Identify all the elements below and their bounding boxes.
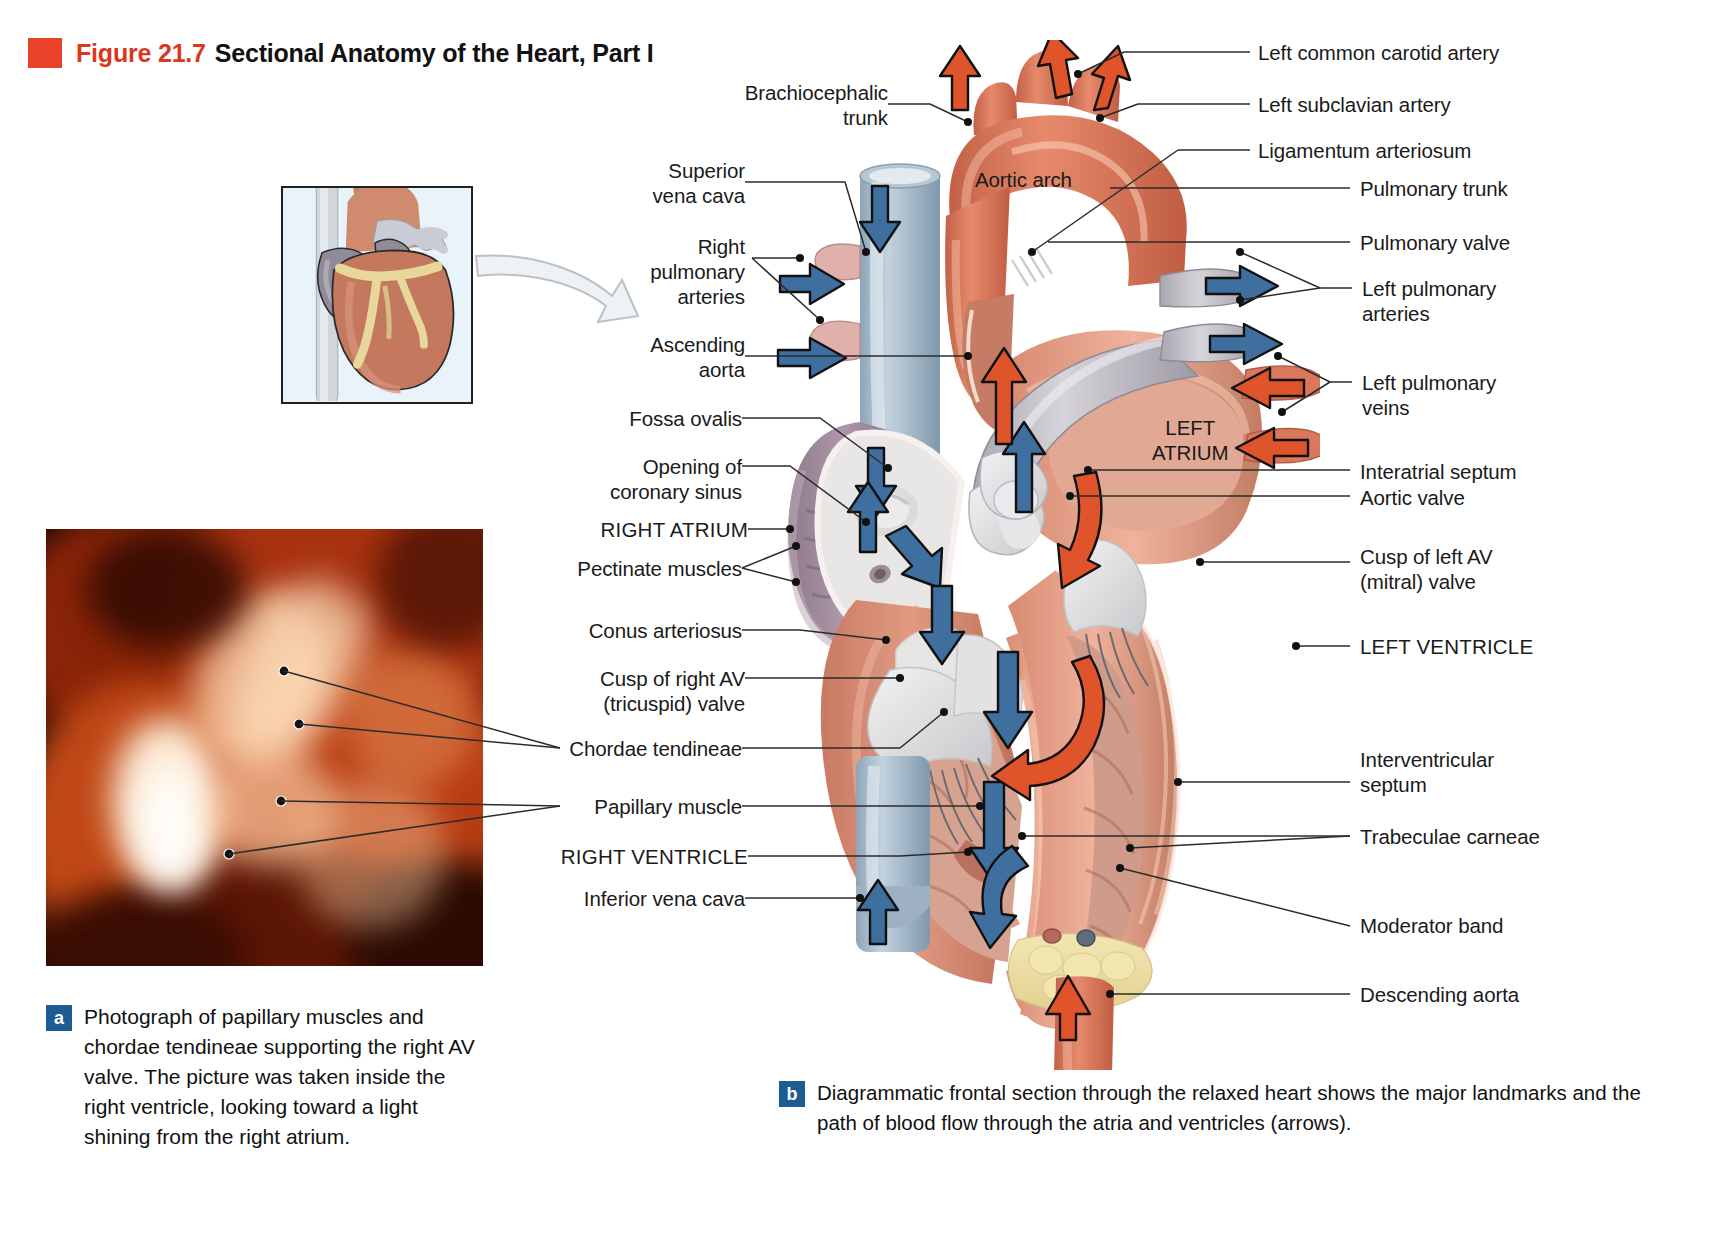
label-pectinate-muscles: Pectinate muscles — [516, 556, 742, 581]
label-cusp-of-left-av-valve: Cusp of left AV (mitral) valve — [1360, 544, 1493, 594]
label-ascending-aorta: Ascending aorta — [588, 332, 745, 382]
label-opening-of-coronary-sinus: Opening of coronary sinus — [560, 454, 742, 504]
caption-a-text: Photograph of papillary muscles and chor… — [84, 1002, 476, 1152]
label-ligamentum-arteriosum: Ligamentum arteriosum — [1258, 138, 1471, 163]
label-right-atrium: RIGHT ATRIUM — [548, 517, 748, 542]
label-left-ventricle: LEFT VENTRICLE — [1360, 634, 1533, 659]
label-brachiocephalic-trunk: Brachiocephalic trunk — [608, 80, 888, 130]
label-left-pulmonary-veins: Left pulmonary veins — [1362, 370, 1496, 420]
caption-a-badge: a — [46, 1005, 72, 1031]
caption-b: b Diagrammatic frontal section through t… — [779, 1078, 1679, 1138]
label-interatrial-septum: Interatrial septum — [1360, 459, 1517, 484]
page-title: Figure 21.7Sectional Anatomy of the Hear… — [76, 39, 654, 68]
label-chordae-tendineae: Chordae tendineae — [516, 736, 742, 761]
figure-title-label: Sectional Anatomy of the Heart, Part I — [215, 39, 654, 67]
label-right-ventricle: RIGHT VENTRICLE — [522, 844, 748, 869]
label-right-pulmonary-arteries: Right pulmonary arteries — [588, 234, 745, 309]
label-aortic-arch: Aortic arch — [975, 167, 1072, 192]
label-inferior-vena-cava: Inferior vena cava — [516, 886, 745, 911]
label-descending-aorta: Descending aorta — [1360, 982, 1519, 1007]
label-moderator-band: Moderator band — [1360, 913, 1503, 938]
label-left-subclavian-artery: Left subclavian artery — [1258, 92, 1451, 117]
heart-orientation-inset — [281, 186, 473, 404]
label-interventricular-septum: Interventricular septum — [1360, 747, 1494, 797]
label-cusp-of-right-av-valve: Cusp of right AV (tricuspid) valve — [540, 666, 745, 716]
label-conus-arteriosus: Conus arteriosus — [516, 618, 742, 643]
label-pulmonary-trunk: Pulmonary trunk — [1360, 176, 1508, 201]
ligamentum-arteriosum-strands — [1012, 248, 1052, 286]
label-papillary-muscle: Papillary muscle — [516, 794, 742, 819]
figure-title-bar: Figure 21.7Sectional Anatomy of the Hear… — [28, 38, 654, 68]
heart-frontal-section-illustration — [760, 40, 1320, 1070]
figure-number: Figure 21.7 — [76, 39, 206, 67]
label-aortic-valve: Aortic valve — [1360, 485, 1465, 510]
caption-a: a Photograph of papillary muscles and ch… — [46, 1002, 476, 1152]
photo-leader-dots — [46, 529, 483, 966]
label-pulmonary-valve: Pulmonary valve — [1360, 230, 1510, 255]
label-fossa-ovalis: Fossa ovalis — [560, 406, 742, 431]
label-left-pulmonary-arteries: Left pulmonary arteries — [1362, 276, 1496, 326]
label-left-atrium: LEFT ATRIUM — [1152, 415, 1228, 465]
caption-b-text: Diagrammatic frontal section through the… — [817, 1078, 1679, 1138]
inferior-vena-cava-vessel — [856, 756, 930, 952]
caption-b-badge: b — [779, 1081, 805, 1107]
figure-color-swatch — [28, 38, 62, 68]
papillary-muscle-photograph — [46, 529, 483, 966]
label-left-common-carotid-artery: Left common carotid artery — [1258, 40, 1499, 65]
inset-heart-illustration — [283, 188, 471, 401]
label-trabeculae-carneae: Trabeculae carneae — [1360, 824, 1540, 849]
label-superior-vena-cava: Superior vena cava — [608, 158, 745, 208]
